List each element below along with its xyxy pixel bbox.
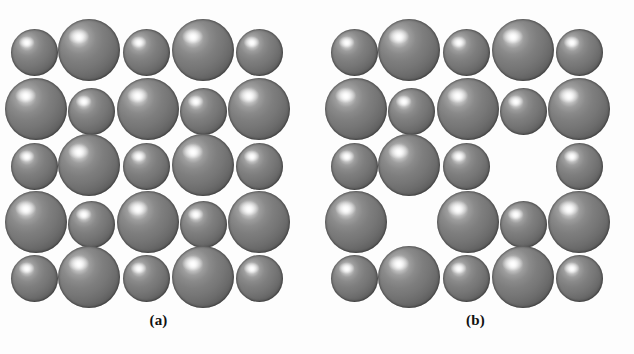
lattice-sphere-large	[172, 134, 234, 196]
lattice-sphere-small	[68, 88, 115, 135]
lattice-sphere-large	[117, 191, 179, 253]
lattice-sphere-large	[548, 78, 610, 140]
lattice-sphere-small	[388, 88, 435, 135]
panel-b-caption: (b)	[317, 312, 634, 329]
lattice-sphere-small	[556, 143, 603, 190]
lattice-sphere-large	[378, 19, 440, 81]
lattice-sphere-large	[172, 19, 234, 81]
lattice-sphere-small	[331, 143, 378, 190]
lattice-sphere-small	[236, 255, 283, 302]
lattice-sphere-large	[492, 19, 554, 81]
panel-a-caption: (a)	[0, 312, 317, 329]
lattice-sphere-small	[68, 201, 115, 248]
lattice-sphere-large	[228, 191, 290, 253]
lattice-sphere-small	[236, 143, 283, 190]
lattice-sphere-small	[331, 255, 378, 302]
lattice-sphere-small	[443, 29, 490, 76]
lattice-sphere-large	[228, 78, 290, 140]
lattice-sphere-large	[492, 246, 554, 308]
lattice-sphere-small	[556, 255, 603, 302]
lattice-sphere-large	[325, 78, 387, 140]
lattice-sphere-large	[378, 246, 440, 308]
lattice-sphere-large	[58, 246, 120, 308]
panel-a: (a)	[0, 0, 317, 354]
lattice-sphere-small	[500, 201, 547, 248]
lattice-grid-b	[317, 0, 634, 310]
lattice-sphere-large	[58, 19, 120, 81]
lattice-sphere-small	[11, 29, 58, 76]
lattice-sphere-large	[437, 191, 499, 253]
lattice-sphere-small	[556, 29, 603, 76]
lattice-sphere-large	[5, 78, 67, 140]
lattice-grid-a	[0, 0, 317, 310]
lattice-sphere-large	[172, 246, 234, 308]
lattice-sphere-small	[331, 29, 378, 76]
lattice-sphere-small	[500, 88, 547, 135]
lattice-sphere-small	[236, 29, 283, 76]
lattice-sphere-small	[11, 143, 58, 190]
lattice-sphere-large	[325, 191, 387, 253]
lattice-sphere-small	[443, 143, 490, 190]
lattice-sphere-large	[117, 78, 179, 140]
panel-b: (b)	[317, 0, 634, 354]
lattice-sphere-small	[123, 255, 170, 302]
lattice-sphere-large	[548, 191, 610, 253]
lattice-sphere-small	[180, 88, 227, 135]
lattice-sphere-small	[123, 29, 170, 76]
lattice-sphere-large	[5, 191, 67, 253]
lattice-sphere-large	[437, 78, 499, 140]
lattice-sphere-large	[58, 134, 120, 196]
lattice-sphere-large	[378, 134, 440, 196]
lattice-sphere-small	[180, 201, 227, 248]
lattice-sphere-small	[443, 255, 490, 302]
lattice-sphere-small	[11, 255, 58, 302]
lattice-sphere-small	[123, 143, 170, 190]
figure-root: (a) (b)	[0, 0, 634, 354]
